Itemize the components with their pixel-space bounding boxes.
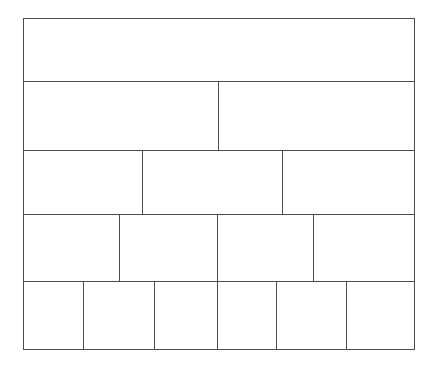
brick-cell <box>155 282 218 350</box>
brick-course <box>24 82 414 151</box>
brick-cell <box>314 215 413 281</box>
brick-course <box>24 18 414 82</box>
brick-cell <box>24 151 143 214</box>
brick-cell <box>24 82 219 150</box>
brick-cell <box>24 215 120 281</box>
brick-cell <box>143 151 282 214</box>
brick-cell <box>84 282 156 350</box>
brick-cell <box>218 282 277 350</box>
brick-course <box>24 151 414 215</box>
brick-cell <box>24 18 414 81</box>
brick-wall-figure <box>23 18 415 350</box>
brick-cell <box>219 82 414 150</box>
brick-course <box>24 282 414 350</box>
diagram-canvas <box>0 0 438 366</box>
brick-cell <box>277 282 348 350</box>
brick-course <box>24 215 414 282</box>
brick-cell <box>347 282 414 350</box>
brick-cell <box>24 282 84 350</box>
brick-cell <box>218 215 315 281</box>
brick-cell <box>283 151 414 214</box>
brick-cell <box>120 215 218 281</box>
